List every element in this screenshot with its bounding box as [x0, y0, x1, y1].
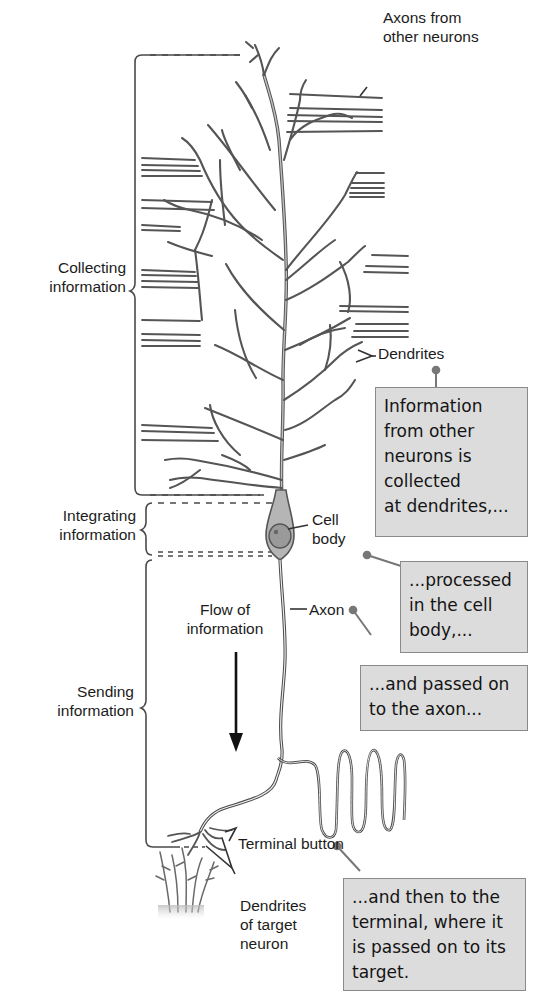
- label-dendrites-of-target-neuron: Dendrites of target neuron: [240, 896, 306, 953]
- label-dendrites: Dendrites: [378, 344, 444, 363]
- label-axons-from-other-neurons: Axons from other neurons: [383, 8, 479, 46]
- label-integrating-information: Integrating information: [30, 506, 136, 544]
- callout-passed-to-terminal: ...and then to the terminal, where it is…: [343, 878, 526, 991]
- label-flow-of-information: Flow of information: [177, 600, 273, 638]
- label-terminal-button: Terminal button: [238, 834, 344, 853]
- label-cell-body: Cell body: [312, 510, 346, 548]
- neuron-diagram: Axons from other neurons Collecting info…: [0, 0, 557, 1001]
- label-axon: Axon: [309, 600, 344, 619]
- callout-collected-at-dendrites: Information from other neurons is collec…: [375, 387, 528, 537]
- flow-arrow-icon: [229, 652, 243, 752]
- bracket-integrating: [141, 503, 272, 556]
- label-collecting-information: Collecting information: [32, 258, 126, 296]
- incoming-axons: [142, 94, 408, 441]
- leader-axons: [360, 87, 367, 96]
- callout-processed-in-cell-body: ...processed in the cell body,...: [400, 561, 528, 653]
- label-sending-information: Sending information: [30, 682, 134, 720]
- dendrites: [164, 42, 365, 500]
- callout-passed-to-axon: ...and passed on to the axon...: [360, 665, 528, 731]
